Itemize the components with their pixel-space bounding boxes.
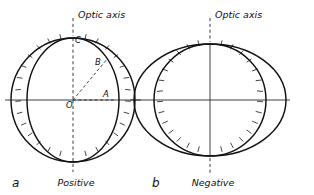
label-point-C: C bbox=[75, 35, 81, 45]
panel-a-positive: O A B C Optic axis Positive a bbox=[5, 9, 141, 190]
label-point-A: A bbox=[102, 89, 109, 99]
panel-b-negative: Optic axis Negative b bbox=[130, 9, 290, 190]
label-point-B: B bbox=[95, 57, 101, 67]
panel-a-optic-axis-label: Optic axis bbox=[78, 9, 125, 20]
label-point-O: O bbox=[66, 100, 73, 110]
optical-indicatrix-figure: O A B C Optic axis Positive a bbox=[0, 0, 314, 195]
panel-b-letter: b bbox=[152, 176, 160, 190]
figure-canvas: O A B C Optic axis Positive a bbox=[0, 0, 314, 195]
panel-a-caption: Positive bbox=[58, 177, 95, 188]
panel-b-optic-axis-label: Optic axis bbox=[215, 9, 262, 20]
panel-a-letter: a bbox=[12, 176, 19, 190]
panel-b-caption: Negative bbox=[192, 177, 235, 188]
